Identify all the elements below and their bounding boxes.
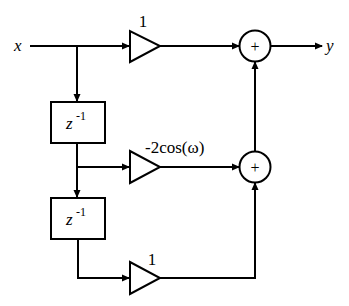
block-diagram: x 1 + y z -1 -2cos(ω) + z bbox=[0, 0, 349, 306]
delay-2-to-gain-3-line bbox=[78, 239, 129, 278]
delay-1-base: z bbox=[65, 114, 73, 133]
input-label: x bbox=[13, 36, 22, 55]
delay-1-exp: -1 bbox=[76, 109, 86, 123]
adder-2-symbol: + bbox=[250, 159, 259, 176]
gain-block-2: -2cos(ω) bbox=[130, 138, 204, 183]
gain-3-label: 1 bbox=[148, 250, 157, 269]
gain-block-3: 1 bbox=[130, 250, 160, 294]
adder-2: + bbox=[240, 152, 271, 183]
gain-2-label: -2cos(ω) bbox=[145, 138, 204, 157]
delay-block-1: z -1 bbox=[51, 102, 105, 143]
adder-1: + bbox=[240, 31, 271, 62]
delay-2-exp: -1 bbox=[76, 205, 86, 219]
adder-1-symbol: + bbox=[250, 38, 259, 55]
gain-3-output-line bbox=[160, 183, 255, 278]
delay-block-2: z -1 bbox=[51, 198, 105, 239]
delay-2-base: z bbox=[65, 210, 73, 229]
output-label: y bbox=[324, 36, 334, 55]
gain-block-1: 1 bbox=[130, 12, 160, 62]
gain-1-label: 1 bbox=[139, 12, 148, 31]
